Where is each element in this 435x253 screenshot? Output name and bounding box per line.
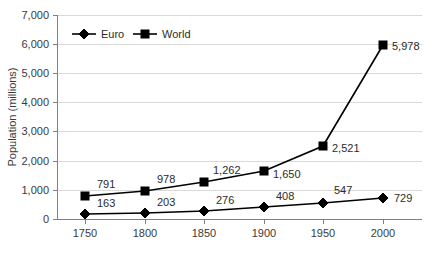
y-label-6000: 6,000 xyxy=(21,38,49,50)
series-euro-marker-1800 xyxy=(140,208,150,218)
chart-legend: Euro World xyxy=(72,28,191,40)
legend-label-world: World xyxy=(162,28,191,40)
series-euro-marker-2000 xyxy=(378,193,388,203)
series-euro-marker-1950 xyxy=(318,198,328,208)
series-world-marker-1900 xyxy=(260,167,268,175)
series-world-marker-1950 xyxy=(319,142,327,150)
legend-item-world[interactable]: World xyxy=(133,28,191,40)
world-data-labels: 791 978 1,262 1,650 2,521 5,978 xyxy=(97,40,420,190)
legend-world-square-icon xyxy=(141,30,149,38)
euro-label-2000: 729 xyxy=(394,192,412,204)
euro-label-1950: 547 xyxy=(334,184,352,196)
x-axis-tick-labels: 1750 1800 1850 1900 1950 2000 xyxy=(73,227,395,239)
y-axis-ticks xyxy=(53,15,57,219)
series-world-marker-1750 xyxy=(81,192,89,200)
population-growth-line-chart: 7,000 6,000 5,000 4,000 3,000 2,000 1,00… xyxy=(0,0,435,253)
euro-label-1850: 276 xyxy=(216,194,234,206)
series-euro-marker-1850 xyxy=(199,206,209,216)
x-label-1800: 1800 xyxy=(133,227,157,239)
x-label-1750: 1750 xyxy=(73,227,97,239)
y-axis-title: Population (millions) xyxy=(6,67,18,166)
series-world-marker-1850 xyxy=(200,178,208,186)
world-label-1800: 978 xyxy=(157,173,175,185)
y-axis-tick-labels: 7,000 6,000 5,000 4,000 3,000 2,000 1,00… xyxy=(21,9,49,225)
y-label-5000: 5,000 xyxy=(21,67,49,79)
series-world-marker-1800 xyxy=(141,187,149,195)
x-label-2000: 2000 xyxy=(371,227,395,239)
y-label-0: 0 xyxy=(43,213,49,225)
euro-label-1900: 408 xyxy=(276,190,294,202)
x-label-1950: 1950 xyxy=(311,227,335,239)
world-label-1950: 2,521 xyxy=(332,142,360,154)
legend-euro-diamond-icon xyxy=(79,29,89,39)
euro-label-1800: 203 xyxy=(157,196,175,208)
euro-label-1750: 163 xyxy=(97,197,115,209)
series-world xyxy=(81,41,387,200)
series-world-marker-2000 xyxy=(379,41,387,49)
world-label-1850: 1,262 xyxy=(213,164,241,176)
chart-canvas: 7,000 6,000 5,000 4,000 3,000 2,000 1,00… xyxy=(0,0,435,253)
x-axis-ticks xyxy=(85,219,383,224)
series-euro-marker-1750 xyxy=(80,209,90,219)
world-label-2000: 5,978 xyxy=(392,40,420,52)
legend-item-euro[interactable]: Euro xyxy=(72,28,124,40)
x-label-1900: 1900 xyxy=(252,227,276,239)
y-label-1000: 1,000 xyxy=(21,184,49,196)
y-label-2000: 2,000 xyxy=(21,155,49,167)
y-label-7000: 7,000 xyxy=(21,9,49,21)
x-label-1850: 1850 xyxy=(192,227,216,239)
world-label-1750: 791 xyxy=(97,178,115,190)
world-label-1900: 1,650 xyxy=(273,168,301,180)
y-label-4000: 4,000 xyxy=(21,96,49,108)
y-label-3000: 3,000 xyxy=(21,125,49,137)
legend-label-euro: Euro xyxy=(101,28,124,40)
series-euro-marker-1900 xyxy=(259,202,269,212)
